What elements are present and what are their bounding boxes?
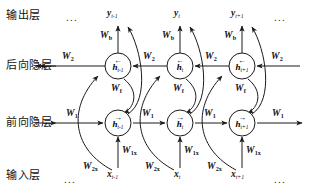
backward-node-sub-t+1: t+1 <box>241 67 249 73</box>
input-var-t: xt <box>174 170 180 180</box>
w2-base-1: W <box>143 51 151 61</box>
weight-label-w1-3: W1 <box>272 109 284 119</box>
w2x-sub-t: 2x <box>154 165 160 172</box>
row-label-arrows <box>36 66 56 123</box>
input-var-sub-t+1: t+1 <box>236 174 244 180</box>
weight-label-wf-t-1: Wf <box>111 84 122 94</box>
backward-node-label-t+1: ←ht+1 <box>227 58 257 72</box>
weight-label-w2-1: W2 <box>143 52 155 62</box>
w1x-base-t: W <box>184 145 192 155</box>
weight-label-w1-0: W1 <box>66 109 78 119</box>
ellipsis-bottom-right: ... <box>274 174 286 185</box>
weight-label-wf-t+1: Wf <box>235 84 246 94</box>
weight-label-w2-2: W2 <box>205 52 217 62</box>
output-var-t+1: yt+1 <box>231 9 244 19</box>
backward-node-label-t-1: ←ht-1 <box>103 58 133 72</box>
forward-node-base-t: h <box>177 119 182 129</box>
row-label-forward-hidden: 前向隐层 <box>6 117 52 128</box>
w2x-sub-t+1: 2x <box>216 165 222 172</box>
forward-node-label-t+1: →ht+1 <box>227 115 257 129</box>
forward-arrow-icon-t-1: → <box>103 115 133 120</box>
wf-base-t: W <box>173 83 181 93</box>
wb-base-t-1: W <box>100 30 108 40</box>
backward-node-base-t+1: h <box>236 62 241 72</box>
w1-sub-1: 1 <box>151 112 154 119</box>
forward-node-sub-t: t <box>182 124 184 130</box>
output-var-sub-t+1: t+1 <box>235 13 243 19</box>
wf-sub-t: f <box>182 87 184 94</box>
wb-base-t+1: W <box>224 30 232 40</box>
weight-label-w1x-t: W1x <box>184 146 199 156</box>
ellipsis-bottom-left: ... <box>64 174 76 185</box>
w1x-base-t+1: W <box>246 145 254 155</box>
input-var-sub-t-1: t-1 <box>112 174 118 180</box>
w2-base-2: W <box>205 51 213 61</box>
input-var-t-1: xt-1 <box>107 170 118 180</box>
w1-sub-3: 1 <box>281 112 284 119</box>
backward-arrow-icon-t+1: ← <box>227 58 257 63</box>
w1x-sub-t: 1x <box>193 149 199 156</box>
cross-curve-t-1 <box>124 79 134 113</box>
backward-node-sub-t: t <box>182 67 184 73</box>
weight-label-w2x-t+1: W2x <box>207 162 222 172</box>
ellipsis-top-right: ... <box>274 12 286 23</box>
w2x-base-t+1: W <box>207 161 215 171</box>
backward-node-label-t: ←ht <box>165 58 195 72</box>
forward-node-sub-t+1: t+1 <box>241 124 249 130</box>
backward-arrow-icon-t-1: ← <box>103 58 133 63</box>
wf-sub-t+1: f <box>244 87 246 94</box>
wb-sub-t-1: b <box>109 34 112 41</box>
ellipsis-top-left: ... <box>66 12 78 23</box>
backward-node-sub-t-1: t-1 <box>118 67 124 73</box>
weight-label-w2x-t: W2x <box>145 162 160 172</box>
w1x-sub-t+1: 1x <box>255 149 261 156</box>
w2-sub-3: 2 <box>280 55 283 62</box>
weight-label-wf-t: Wf <box>173 84 184 94</box>
wf-base-t-1: W <box>111 83 119 93</box>
w1-base-0: W <box>66 108 74 118</box>
forward-node-base-t-1: h <box>112 119 117 129</box>
w2-sub-0: 2 <box>71 55 74 62</box>
weight-label-w2-3: W2 <box>271 52 283 62</box>
w1x-sub-t-1: 1x <box>131 149 137 156</box>
weight-label-w1x-t+1: W1x <box>246 146 261 156</box>
forward-arrow-icon-t+1: → <box>227 115 257 120</box>
w1-base-1: W <box>142 108 150 118</box>
output-var-t: yt <box>174 9 180 19</box>
w2-sub-2: 2 <box>214 55 217 62</box>
cross-curve-t+1 <box>248 79 258 113</box>
output-var-t-1: yt-1 <box>107 9 118 19</box>
backward-node-base-t: h <box>177 62 182 72</box>
w1-base-3: W <box>272 108 280 118</box>
w2x-sub-t-1: 2x <box>92 165 98 172</box>
weight-label-w1x-t-1: W1x <box>122 146 137 156</box>
w1-sub-2: 1 <box>213 112 216 119</box>
forward-node-label-t-1: →ht-1 <box>103 115 133 129</box>
w2-base-0: W <box>62 51 70 61</box>
row-label-input: 输入层 <box>6 170 41 181</box>
weight-label-wb-t+1: Wb <box>224 31 236 41</box>
w1-base-2: W <box>204 108 212 118</box>
w2x-base-t-1: W <box>83 161 91 171</box>
w2-sub-1: 2 <box>152 55 155 62</box>
input-var-sub-t: t <box>179 174 181 180</box>
row-label-backward-hidden: 后向隐层 <box>6 60 52 71</box>
weight-label-w2-0: W2 <box>62 52 74 62</box>
wf-base-t+1: W <box>235 83 243 93</box>
output-var-sub-t-1: t-1 <box>111 13 117 19</box>
output-var-sub-t: t <box>178 13 180 19</box>
weight-label-w2x-t-1: W2x <box>83 162 98 172</box>
input-var-t+1: xt+1 <box>231 170 244 180</box>
weight-label-wb-t-1: Wb <box>100 31 112 41</box>
wb-sub-t+1: b <box>233 34 236 41</box>
cross-curve-t <box>186 79 196 113</box>
weight-label-w1-2: W1 <box>204 109 216 119</box>
wb-base-t: W <box>162 30 170 40</box>
w1x-base-t-1: W <box>122 145 130 155</box>
w1-sub-0: 1 <box>75 112 78 119</box>
forward-node-label-t: →ht <box>165 115 195 129</box>
row-label-output: 输出层 <box>6 10 41 21</box>
figure-canvas: 输出层 后向隐层 前向隐层 输入层 ... ... ... ... yt-1 y… <box>0 0 309 192</box>
wf-sub-t-1: f <box>120 87 122 94</box>
weight-label-w1-1: W1 <box>142 109 154 119</box>
